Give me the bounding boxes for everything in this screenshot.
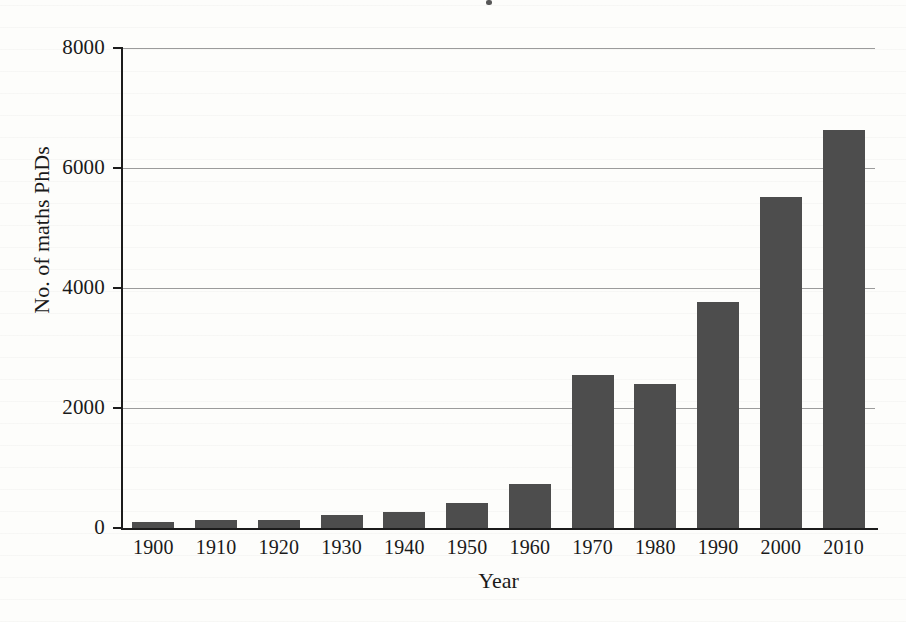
- bar: [446, 503, 488, 528]
- bar: [572, 375, 614, 528]
- bar: [823, 130, 865, 528]
- x-tick-label: 1930: [307, 534, 377, 560]
- x-tick-label: 1980: [620, 534, 690, 560]
- y-tick-mark: [113, 47, 121, 49]
- x-axis-spine: [121, 528, 878, 530]
- y-tick-label: 2000: [33, 397, 105, 418]
- x-tick-label: 1960: [495, 534, 565, 560]
- y-tick-label: 0: [33, 517, 105, 538]
- bar: [509, 484, 551, 528]
- x-tick-label: 2000: [746, 534, 816, 560]
- bar: [383, 512, 425, 528]
- x-tick-labels: 1900191019201930194019501960197019801990…: [122, 534, 875, 564]
- bar-chart-figure: 02000400060008000 1900191019201930194019…: [0, 0, 906, 622]
- bar: [258, 520, 300, 528]
- y-tick-mark: [113, 167, 121, 169]
- y-tick-mark: [113, 407, 121, 409]
- bar: [321, 515, 363, 528]
- y-axis-title: No. of maths PhDs: [30, 100, 54, 360]
- x-tick-label: 2010: [809, 534, 879, 560]
- x-tick-label: 1920: [244, 534, 314, 560]
- ink-speck: [486, 0, 492, 5]
- x-tick-label: 1990: [683, 534, 753, 560]
- x-axis-title: Year: [122, 568, 875, 594]
- x-tick-label: 1910: [181, 534, 251, 560]
- bar: [132, 522, 174, 528]
- x-tick-label: 1970: [558, 534, 628, 560]
- bar: [760, 197, 802, 528]
- bar: [195, 520, 237, 528]
- bar: [697, 302, 739, 528]
- y-tick-mark: [113, 527, 121, 529]
- y-tick-mark: [113, 287, 121, 289]
- y-tick-label: 8000: [33, 37, 105, 58]
- x-tick-label: 1900: [118, 534, 188, 560]
- bar: [634, 384, 676, 528]
- x-tick-label: 1950: [432, 534, 502, 560]
- bar-series: [122, 48, 875, 528]
- x-tick-label: 1940: [369, 534, 439, 560]
